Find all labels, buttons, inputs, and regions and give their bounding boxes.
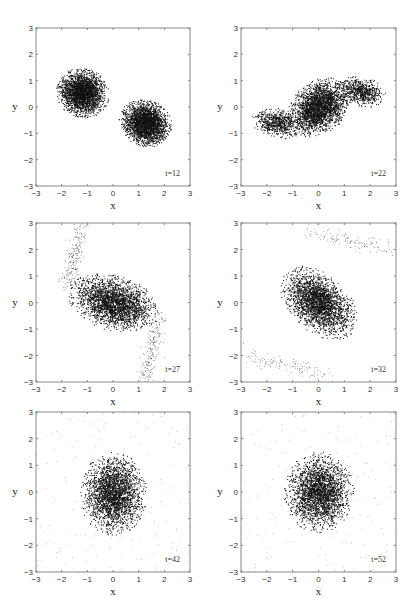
x-tick-label: 0 — [316, 575, 321, 584]
scatter-points — [241, 414, 395, 572]
x-tick-label: 1 — [342, 575, 347, 584]
y-tick-label: −3 — [229, 568, 239, 577]
y-tick-label: 1 — [234, 461, 239, 470]
y-tick-label: −1 — [229, 515, 239, 524]
time-annotation: t=52 — [371, 555, 386, 564]
y-tick-label: 0 — [234, 488, 239, 497]
plot-svg: −3−2−10123−3−2−10123xyt=52 — [0, 0, 418, 613]
y-axis-label: y — [217, 485, 223, 497]
y-tick-label: −2 — [229, 541, 239, 550]
x-tick-label: −1 — [288, 575, 298, 584]
x-tick-label: −2 — [262, 575, 272, 584]
y-tick-label: 2 — [234, 435, 239, 444]
x-axis-label: x — [316, 585, 322, 597]
x-tick-label: 2 — [368, 575, 373, 584]
x-tick-label: 3 — [394, 575, 399, 584]
y-tick-label: 3 — [234, 408, 239, 417]
